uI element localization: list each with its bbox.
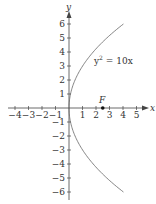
y-tick-label: 6 — [59, 19, 65, 29]
x-tick-label: 5 — [134, 110, 140, 120]
y-tick-label: −5 — [52, 173, 66, 183]
y-tick-label: 5 — [59, 33, 65, 43]
y-tick-label: 2 — [59, 75, 65, 85]
y-tick-label: −4 — [52, 159, 66, 169]
y-axis-arrow-icon — [67, 11, 72, 18]
y-tick-label: −3 — [52, 145, 66, 155]
x-tick-label: 1 — [80, 110, 86, 120]
focus-point — [101, 106, 105, 110]
x-tick-label: −3 — [22, 110, 36, 120]
focus-label: F — [98, 95, 106, 105]
equation-label: y2 = 10x — [93, 54, 133, 66]
x-axis-arrow-icon — [142, 106, 149, 111]
x-tick-label: 3 — [107, 110, 113, 120]
x-tick-label: 2 — [93, 110, 99, 120]
x-axis-label: x — [150, 103, 155, 113]
y-tick-label: 3 — [59, 61, 65, 71]
x-tick-label: −4 — [8, 110, 22, 120]
y-tick-label: −2 — [52, 131, 65, 141]
parabola-diagram: x y −4−3−2−112345 −6−5−4−3−2−1123456 y2 … — [0, 0, 156, 204]
y-tick-label: −6 — [52, 187, 66, 197]
x-tick-label: 4 — [120, 110, 126, 120]
y-tick-label: −1 — [52, 117, 65, 127]
x-tick-label: −2 — [35, 110, 48, 120]
y-tick-label: 1 — [59, 89, 65, 99]
y-tick-label: 4 — [59, 47, 65, 57]
y-axis-label: y — [65, 2, 72, 12]
